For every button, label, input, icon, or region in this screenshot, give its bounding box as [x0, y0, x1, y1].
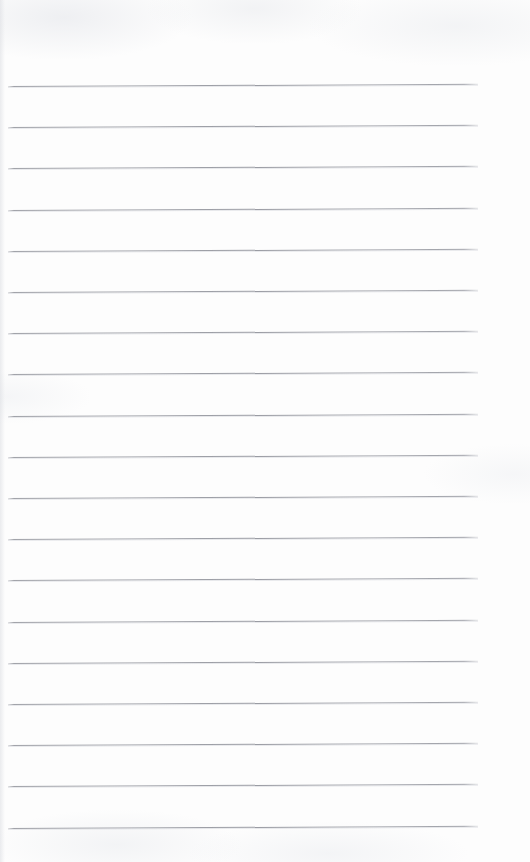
- ruled-line: [8, 207, 478, 210]
- ruled-line: [8, 784, 478, 787]
- ruled-line: [8, 537, 478, 540]
- ruled-line: [8, 702, 478, 705]
- ruled-line: [8, 661, 478, 664]
- ruled-line: [8, 125, 478, 128]
- ruled-line: [8, 455, 478, 458]
- ruled-line: [8, 166, 478, 169]
- ruled-line: [8, 825, 478, 828]
- ruled-line: [8, 743, 478, 746]
- ruled-line: [8, 578, 478, 581]
- ruled-line: [8, 290, 478, 293]
- ruled-line: [8, 84, 478, 87]
- ruled-line: [8, 413, 478, 416]
- ruled-line: [8, 331, 478, 334]
- ruled-line: [8, 619, 478, 622]
- ruled-line: [8, 496, 478, 499]
- ruled-line: [8, 249, 478, 252]
- ruled-line: [8, 372, 478, 375]
- ruled-lines-group: [0, 0, 530, 862]
- scanned-page: [0, 0, 530, 862]
